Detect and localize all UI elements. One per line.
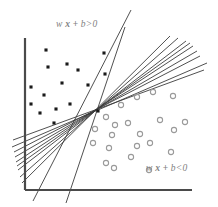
data-point-positive [65, 62, 68, 65]
data-point-positive [29, 85, 32, 88]
data-point-negative [125, 120, 130, 125]
class-positive-points-group [29, 48, 106, 124]
candidate-hyperplane-line [17, 43, 190, 166]
candidate-hyperplane-line [14, 56, 200, 152]
data-point-positive [54, 107, 57, 110]
candidate-lines-group [12, 10, 207, 203]
negative-region-label: w x + b<0 [146, 164, 187, 174]
data-point-positive [103, 72, 106, 75]
data-point-positive [86, 83, 89, 86]
data-point-positive [29, 102, 32, 105]
data-point-negative [134, 143, 139, 148]
data-point-negative [137, 131, 142, 136]
data-point-positive [68, 102, 71, 105]
data-point-negative [92, 126, 97, 131]
candidate-hyperplane-line [33, 10, 131, 201]
positive-region-label: w x + b>0 [56, 20, 97, 30]
positive-label-operator: + [70, 19, 81, 29]
negative-label-prefix: w [146, 163, 155, 173]
data-point-positive [76, 68, 79, 71]
candidate-hyperplane-line [66, 27, 125, 203]
data-point-negative [103, 114, 108, 119]
data-point-positive [52, 121, 55, 124]
data-point-negative [170, 93, 175, 98]
data-point-positive [44, 48, 47, 51]
data-point-positive [102, 51, 105, 54]
data-point-positive [42, 93, 45, 96]
data-point-negative [118, 102, 123, 107]
positive-label-suffix: b>0 [81, 19, 98, 29]
scatter-plot-canvas [0, 0, 218, 207]
negative-label-operator: + [160, 163, 171, 173]
data-point-negative [157, 117, 162, 122]
data-point-positive [46, 65, 49, 68]
data-point-negative [182, 119, 187, 124]
data-point-negative [106, 145, 111, 150]
data-point-negative [111, 165, 116, 170]
data-point-positive [38, 111, 41, 114]
svm-candidate-hyperplanes-figure: w x + b>0 w x + b<0 [0, 0, 218, 207]
data-point-negative [103, 160, 108, 165]
data-point-positive [60, 81, 63, 84]
data-point-negative [112, 122, 117, 127]
data-point-negative [171, 127, 176, 132]
data-point-negative [109, 132, 114, 137]
positive-label-prefix: w [56, 19, 65, 29]
data-point-negative [90, 140, 95, 145]
data-point-negative [134, 94, 139, 99]
data-point-positive [96, 109, 99, 112]
data-point-negative [147, 140, 152, 145]
data-point-negative [168, 149, 173, 154]
data-point-negative [150, 89, 155, 94]
negative-label-suffix: b<0 [171, 163, 188, 173]
data-point-negative [128, 154, 133, 159]
candidate-hyperplane-line [15, 51, 197, 157]
